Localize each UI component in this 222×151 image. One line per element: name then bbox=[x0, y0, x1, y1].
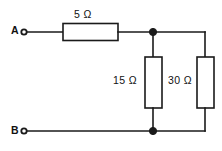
resistor-r3-label: 30 Ω bbox=[168, 75, 192, 86]
terminal-a-label: A bbox=[11, 25, 19, 36]
terminal-a-ring bbox=[21, 29, 26, 34]
resistor-r1-label: 5 Ω bbox=[74, 9, 92, 20]
resistor-r2-body bbox=[145, 57, 162, 108]
terminal-b-ring bbox=[21, 128, 26, 133]
circuit-diagram: A B 5 Ω 15 Ω 30 Ω bbox=[0, 0, 222, 151]
resistor-r2-label: 15 Ω bbox=[113, 75, 137, 86]
resistor-r3-body bbox=[197, 57, 214, 108]
terminal-b-label: B bbox=[11, 125, 19, 136]
resistor-r1-body bbox=[63, 24, 118, 41]
junction-dot-bottom bbox=[149, 127, 156, 134]
junction-dot-top bbox=[149, 28, 156, 35]
